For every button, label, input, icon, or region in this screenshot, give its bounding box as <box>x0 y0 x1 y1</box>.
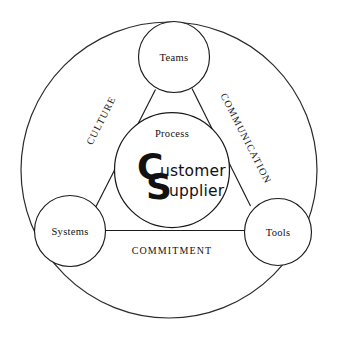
edge-label-culture: CULTURE <box>84 94 118 146</box>
node-label-tools: Tools <box>266 227 291 238</box>
diagram-svg: Teams Systems Tools Process C S ustomer … <box>0 0 347 346</box>
monogram-word-supplier: upplier <box>169 182 225 200</box>
monogram-word-customer: ustomer <box>160 162 226 180</box>
edge-label-commitment: COMMITMENT <box>132 245 212 256</box>
node-label-teams: Teams <box>160 52 189 63</box>
process-label: Process <box>155 128 189 139</box>
node-label-systems: Systems <box>51 226 88 237</box>
diagram-canvas: Teams Systems Tools Process C S ustomer … <box>0 0 347 346</box>
